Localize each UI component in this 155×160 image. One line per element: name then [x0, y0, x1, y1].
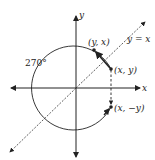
point-yx-label: (y, x)	[88, 37, 110, 47]
line-label: y = x	[126, 34, 150, 44]
point-xy-label: (x, y)	[114, 65, 137, 75]
x-axis-label: x	[142, 83, 147, 93]
reflection-arrow	[96, 52, 110, 68]
point-x-neg-y-label: (x, −y)	[114, 103, 145, 113]
point-xy	[109, 67, 113, 71]
point-x-neg-y	[109, 105, 113, 109]
y-axis-label: y	[78, 10, 85, 20]
line-y-equals-x	[10, 22, 145, 152]
point-yx	[92, 48, 96, 52]
diagram-canvas: y x y = x 270° (y, x) (x, y) (x, −y)	[0, 0, 155, 160]
angle-label: 270°	[25, 58, 47, 68]
